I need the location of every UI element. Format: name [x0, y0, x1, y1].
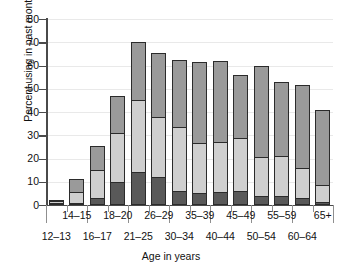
bar-segment-bottom: [131, 172, 146, 205]
y-tick-label-40: 40: [0, 107, 39, 118]
bar-segment-bottom: [213, 192, 228, 205]
bar-18-20: [110, 96, 125, 205]
bar-55-59: [274, 82, 289, 205]
gridline-40: [46, 112, 333, 113]
bar-segment-top: [90, 146, 105, 170]
bar-30-34: [172, 60, 187, 205]
y-tick-label-10: 10: [0, 176, 39, 187]
bar-segment-top: [213, 61, 228, 142]
bar-segment-bottom: [192, 193, 207, 205]
bar-segment-top: [254, 66, 269, 158]
bar-segment-bottom: [110, 182, 125, 205]
y-tick-30: [39, 135, 46, 136]
gridline-60: [46, 66, 333, 67]
x-axis-title: Age in years: [0, 250, 342, 262]
bar-segment-middle: [110, 133, 125, 182]
y-tick-20: [39, 159, 46, 160]
bar-segment-top: [274, 82, 289, 156]
bar-segment-top: [151, 53, 166, 117]
y-tick-label-60: 60: [0, 60, 39, 71]
x-label-65+: 65+: [299, 210, 342, 221]
y-tick-40: [39, 112, 46, 113]
bar-segment-bottom: [233, 191, 248, 205]
bar-segment-middle: [295, 168, 310, 198]
bar-segment-top: [131, 42, 146, 100]
bar-segment-middle: [151, 117, 166, 177]
bar-segment-middle: [254, 157, 269, 195]
bar-segment-middle: [69, 192, 84, 202]
y-tick-60: [39, 66, 46, 67]
bar-segment-middle: [274, 156, 289, 196]
bar-50-54: [254, 66, 269, 206]
bar-chart: Percent using in past month 010203040506…: [0, 0, 342, 267]
y-tick-label-80: 80: [0, 14, 39, 25]
bar-segment-top: [315, 110, 330, 186]
y-tick-label-0: 0: [0, 200, 39, 211]
bar-segment-middle: [90, 170, 105, 198]
bar-21-25: [131, 42, 146, 205]
gridline-70: [46, 42, 333, 43]
bar-segment-middle: [192, 143, 207, 193]
y-tick-label-30: 30: [0, 130, 39, 141]
bar-segment-middle: [315, 185, 330, 201]
bar-segment-bottom: [172, 191, 187, 205]
y-tick-50: [39, 89, 46, 90]
bar-segment-middle: [233, 138, 248, 191]
bar-segment-middle: [172, 127, 187, 191]
bar-segment-top: [192, 62, 207, 143]
y-tick-label-70: 70: [0, 37, 39, 48]
bar-40-44: [213, 61, 228, 205]
bar-14-15: [69, 179, 84, 205]
bar-26-29: [151, 53, 166, 205]
gridline-50: [46, 89, 333, 90]
bar-16-17: [90, 146, 105, 205]
y-tick-label-20: 20: [0, 153, 39, 164]
gridline-80: [46, 19, 333, 20]
plot-area: [46, 19, 333, 205]
bar-segment-top: [233, 75, 248, 138]
y-tick-label-50: 50: [0, 83, 39, 94]
bar-segment-top: [172, 60, 187, 127]
y-tick-10: [39, 182, 46, 183]
bar-segment-top: [69, 179, 84, 192]
bar-segment-middle: [213, 142, 228, 192]
gridline-30: [46, 135, 333, 136]
bar-segment-middle: [131, 100, 146, 172]
bar-45-49: [233, 75, 248, 205]
y-axis-line: [46, 18, 48, 206]
x-tick-0: [46, 205, 47, 223]
bar-segment-bottom: [151, 177, 166, 205]
bar-35-39: [192, 62, 207, 205]
bar-65+: [315, 110, 330, 205]
y-tick-70: [39, 42, 46, 43]
bar-segment-top: [110, 96, 125, 133]
bar-segment-top: [295, 85, 310, 168]
x-label-60-64: 60–64: [278, 231, 326, 242]
y-tick-80: [39, 19, 46, 20]
y-tick-0: [39, 205, 46, 206]
bar-60-64: [295, 85, 310, 205]
